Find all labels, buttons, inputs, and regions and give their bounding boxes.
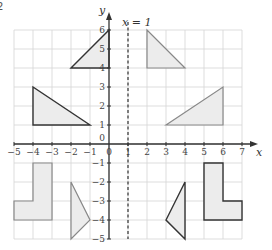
question-number-fragment: 2 xyxy=(0,1,3,12)
y-tick-label: −5 xyxy=(92,234,106,244)
y-tick-label: −3 xyxy=(92,196,106,206)
shape-l-shape-e xyxy=(14,163,52,220)
y-tick-label: 5 xyxy=(99,44,105,54)
y-tick-label: 4 xyxy=(99,63,105,73)
x-axis-label: x xyxy=(256,146,263,159)
x-tick-label: 1 xyxy=(125,147,131,157)
y-tick-label: −1 xyxy=(92,158,105,168)
y-axis-arrow-icon xyxy=(106,12,112,20)
shape-l-shape-h xyxy=(204,163,242,220)
coordinate-grid-diagram: 2 x = 1 x y −5−4−3−2−11234567−5−4−3−2−11… xyxy=(0,0,272,250)
x-tick-label: 4 xyxy=(182,147,188,157)
x-tick-label: −4 xyxy=(26,147,40,157)
shape-triangle-f xyxy=(71,182,90,239)
x-tick-label: 7 xyxy=(239,147,245,157)
x-tick-label: −2 xyxy=(64,147,77,157)
y-tick-label: 2 xyxy=(99,101,105,111)
y-axis-label: y xyxy=(98,4,106,17)
y-tick-label: 3 xyxy=(99,82,105,92)
y-tick-label: 1 xyxy=(99,120,105,130)
shape-triangle-g xyxy=(166,182,185,239)
x-tick-label: 6 xyxy=(220,147,226,157)
x-tick-label: −5 xyxy=(7,147,21,157)
y-tick-label: −2 xyxy=(92,177,105,187)
y-tick-label: −4 xyxy=(92,215,106,225)
origin-label-y: 0 xyxy=(99,133,105,143)
mirror-line-label: x = 1 xyxy=(122,16,151,29)
origin-label-x: 0 xyxy=(106,147,112,157)
x-tick-label: −3 xyxy=(45,147,59,157)
x-tick-label: 3 xyxy=(163,147,169,157)
x-tick-label: 2 xyxy=(144,147,150,157)
x-tick-label: 5 xyxy=(201,147,207,157)
x-tick-label: −1 xyxy=(83,147,96,157)
y-tick-label: 6 xyxy=(99,25,105,35)
